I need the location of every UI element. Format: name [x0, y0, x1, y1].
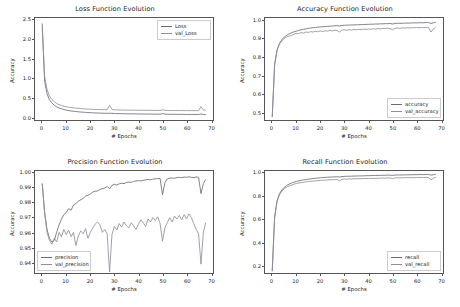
legend-label: val_precision — [55, 261, 89, 268]
x-tick-mark — [442, 274, 443, 276]
y-tick-mark — [32, 78, 34, 79]
y-tick-label: 0.0 — [10, 115, 31, 121]
legend-item[interactable]: Loss — [161, 23, 207, 30]
x-tick-mark — [212, 121, 213, 123]
chart-title: Precision Function Evolution — [0, 158, 230, 166]
x-tick-mark — [296, 121, 297, 123]
subplot-accuracy: Accuracy Function Evolution0.50.60.70.80… — [230, 0, 460, 154]
chart-legend[interactable]: recallval_recall — [387, 251, 441, 271]
y-tick-mark — [262, 196, 264, 197]
legend-item[interactable]: precision — [41, 254, 87, 261]
x-tick-mark — [139, 274, 140, 276]
x-tick-label: 0 — [261, 278, 281, 284]
y-tick-mark — [262, 243, 264, 244]
x-tick-mark — [114, 274, 115, 276]
y-tick-label: 0.94 — [10, 260, 31, 266]
x-tick-label: 20 — [310, 278, 330, 284]
subplot-loss: Loss Function Evolution0.00.51.01.52.02.… — [0, 0, 230, 154]
x-tick-label: 70 — [432, 125, 452, 131]
y-tick-mark — [32, 98, 34, 99]
y-tick-label: 1.0 — [240, 17, 261, 23]
legend-item[interactable]: accuracy — [391, 101, 437, 108]
y-tick-mark — [32, 248, 34, 249]
x-tick-mark — [90, 274, 91, 276]
y-axis-label: Accuracy — [239, 58, 245, 83]
x-tick-mark — [369, 121, 370, 123]
y-axis-label: Accuracy — [9, 211, 15, 236]
x-tick-mark — [271, 274, 272, 276]
y-tick-mark — [32, 233, 34, 234]
series-line — [42, 28, 206, 111]
x-tick-label: 40 — [129, 125, 149, 131]
legend-line-icon — [391, 257, 402, 258]
y-tick-label: 0.99 — [10, 184, 31, 190]
legend-line-icon — [391, 111, 402, 112]
chart-legend[interactable]: Lossval_Loss — [157, 20, 211, 40]
x-axis-label: # Epochs — [34, 133, 214, 139]
legend-line-icon — [391, 104, 402, 105]
y-axis-label: Accuracy — [9, 58, 15, 83]
x-tick-label: 30 — [104, 278, 124, 284]
x-tick-mark — [296, 274, 297, 276]
series-line — [42, 177, 206, 242]
x-tick-label: 0 — [31, 125, 51, 131]
x-tick-label: 40 — [129, 278, 149, 284]
y-tick-mark — [32, 118, 34, 119]
x-tick-label: 10 — [56, 125, 76, 131]
y-tick-label: 0.95 — [10, 245, 31, 251]
x-tick-mark — [163, 121, 164, 123]
y-tick-mark — [262, 172, 264, 173]
x-tick-label: 40 — [359, 278, 379, 284]
y-tick-mark — [32, 263, 34, 264]
y-tick-mark — [32, 217, 34, 218]
x-tick-label: 70 — [202, 278, 222, 284]
legend-line-icon — [161, 26, 172, 27]
y-tick-mark — [262, 20, 264, 21]
chart-title: Loss Function Evolution — [0, 5, 230, 13]
x-tick-mark — [417, 274, 418, 276]
x-tick-label: 70 — [432, 278, 452, 284]
y-tick-mark — [32, 187, 34, 188]
y-tick-mark — [32, 172, 34, 173]
y-tick-label: 0.6 — [240, 91, 261, 97]
y-tick-label: 0.2 — [240, 263, 261, 269]
x-tick-label: 50 — [383, 125, 403, 131]
legend-line-icon — [41, 264, 52, 265]
x-tick-mark — [369, 274, 370, 276]
y-tick-label: 0.98 — [10, 199, 31, 205]
y-tick-mark — [32, 59, 34, 60]
legend-item[interactable]: val_recall — [391, 261, 437, 268]
x-tick-label: 50 — [153, 278, 173, 284]
x-tick-label: 50 — [383, 278, 403, 284]
x-tick-mark — [320, 274, 321, 276]
legend-label: val_recall — [405, 261, 429, 268]
legend-item[interactable]: recall — [391, 254, 437, 261]
x-tick-label: 10 — [286, 125, 306, 131]
x-axis-label: # Epochs — [34, 286, 214, 292]
y-tick-mark — [262, 76, 264, 77]
y-tick-label: 1.0 — [240, 169, 261, 175]
legend-item[interactable]: val_precision — [41, 261, 87, 268]
legend-item[interactable]: val_accuracy — [391, 108, 437, 115]
x-tick-label: 20 — [80, 278, 100, 284]
x-tick-mark — [66, 121, 67, 123]
x-tick-mark — [271, 121, 272, 123]
x-tick-label: 60 — [407, 278, 427, 284]
y-tick-label: 2.5 — [10, 16, 31, 22]
x-tick-label: 40 — [359, 125, 379, 131]
x-tick-mark — [139, 121, 140, 123]
legend-item[interactable]: val_Loss — [161, 30, 207, 37]
chart-legend[interactable]: precisionval_precision — [37, 251, 91, 271]
x-tick-label: 60 — [177, 125, 197, 131]
y-tick-mark — [262, 94, 264, 95]
x-tick-label: 70 — [202, 125, 222, 131]
y-tick-mark — [262, 38, 264, 39]
x-tick-mark — [320, 121, 321, 123]
legend-line-icon — [41, 257, 52, 258]
y-tick-label: 1.00 — [10, 169, 31, 175]
chart-legend[interactable]: accuracyval_accuracy — [387, 98, 441, 118]
legend-label: val_accuracy — [405, 108, 439, 115]
legend-label: accuracy — [405, 101, 428, 108]
x-tick-mark — [442, 121, 443, 123]
x-tick-label: 60 — [407, 125, 427, 131]
